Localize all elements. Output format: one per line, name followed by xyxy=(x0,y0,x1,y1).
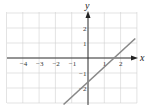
x-tick-label: −4 xyxy=(20,60,28,68)
y-axis-arrow-icon xyxy=(86,11,91,18)
x-tick-label: 2 xyxy=(119,60,123,68)
y-tick-label: 1 xyxy=(83,40,87,48)
data-series xyxy=(64,39,136,105)
grid-lines xyxy=(7,12,138,103)
x-axis-label: x xyxy=(139,52,145,63)
y-tick-label: −1 xyxy=(79,70,87,78)
axes xyxy=(7,11,138,105)
x-tick-label: −3 xyxy=(36,60,44,68)
y-axis-label: y xyxy=(84,0,90,11)
x-tick-label: −2 xyxy=(52,60,60,68)
x-tick-label: −1 xyxy=(69,60,77,68)
y-tick-label: 2 xyxy=(83,25,87,33)
coordinate-plane: −4−3−2−11221−1−2 x y xyxy=(0,0,147,107)
plotted-line xyxy=(64,39,136,105)
